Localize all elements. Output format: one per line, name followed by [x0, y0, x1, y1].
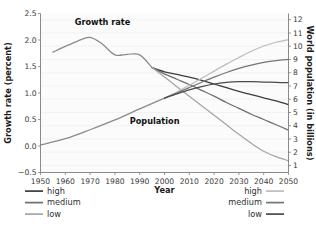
- x-axis-tick-label: 2010: [180, 177, 199, 186]
- left-axis-tick-label: 1.0: [24, 89, 36, 98]
- x-axis-tick-label: 2030: [229, 177, 248, 186]
- y-axis-title: Growth rate (percent): [3, 42, 13, 144]
- y2-axis-title: World population (in billions): [305, 26, 315, 161]
- legend-left-label-medium[interactable]: medium: [47, 197, 81, 207]
- legend-right-label-medium[interactable]: medium: [228, 197, 262, 207]
- legend-left-label-high[interactable]: high: [47, 186, 65, 196]
- right-axis-tick-label: 11: [293, 29, 303, 38]
- right-axis-tick-label: 4: [293, 121, 298, 130]
- legend-right-label-low[interactable]: low: [248, 209, 262, 219]
- x-axis-tick-label: 2040: [254, 177, 273, 186]
- left-axis-tick-label: 0.5: [24, 115, 36, 124]
- x-axis-tick-label: 1960: [56, 177, 75, 186]
- x-axis-tick-label: 2020: [204, 177, 223, 186]
- x-axis-tick-label: 1990: [130, 177, 149, 186]
- right-axis-tick-label: 12: [293, 15, 303, 24]
- right-axis-tick-label: 9: [293, 55, 298, 64]
- right-axis-tick-label: 3: [293, 135, 298, 144]
- left-axis-tick-label: 1.5: [24, 62, 36, 71]
- legend-right-label-high[interactable]: high: [244, 186, 262, 196]
- x-axis-tick-label: 1950: [31, 177, 50, 186]
- x-axis-tick-label: 1980: [105, 177, 124, 186]
- right-axis-tick-label: 5: [293, 108, 298, 117]
- growth-rate-and-world-population-chart: −0.50.00.51.01.52.02.5123456789101112195…: [0, 0, 316, 226]
- right-axis-tick-label: 1: [293, 161, 298, 170]
- x-axis-tick-label: 2050: [279, 177, 298, 186]
- annotation-population: Population: [130, 116, 180, 126]
- right-axis-tick-label: 10: [293, 42, 303, 51]
- right-axis-tick-label: 2: [293, 148, 298, 157]
- right-axis-tick-label: 6: [293, 95, 298, 104]
- right-axis-tick-label: 8: [293, 68, 298, 77]
- left-axis-tick-label: 0.0: [24, 142, 36, 151]
- left-axis-tick-label: 2.5: [24, 9, 36, 18]
- left-axis-tick-label: 2.0: [24, 36, 36, 45]
- x-axis-tick-label: 1970: [80, 177, 99, 186]
- x-axis-title: Year: [153, 185, 175, 195]
- right-axis-tick-label: 7: [293, 82, 298, 91]
- chart-figure: −0.50.00.51.01.52.02.5123456789101112195…: [0, 0, 316, 226]
- legend-left-label-low[interactable]: low: [47, 209, 61, 219]
- plot-background: [41, 14, 289, 173]
- annotation-growth-rate: Growth rate: [75, 17, 131, 27]
